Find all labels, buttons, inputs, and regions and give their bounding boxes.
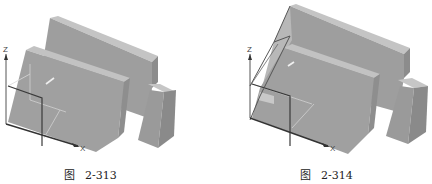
caption-prefix: 图 [64,169,75,182]
figure-caption: 图2-314 [300,166,353,182]
z-axis-arrow-icon [248,54,252,60]
caption-number: 2-313 [85,169,117,182]
figure-2-314: Z X 图2-314 [216,0,432,184]
z-axis-label: Z [3,45,8,54]
caption-number: 2-314 [321,169,353,182]
caption-prefix: 图 [300,169,311,182]
x-axis-label: X [330,144,336,153]
x-axis-label: X [80,144,86,153]
model-render-right: Z X [216,0,432,184]
figure-2-313: Z X 图2-313 [0,0,216,184]
model-render-left: Z X [0,0,216,184]
z-axis-arrow-icon [4,54,8,60]
z-axis-label: Z [247,45,252,54]
figure-caption: 图2-313 [64,166,117,182]
